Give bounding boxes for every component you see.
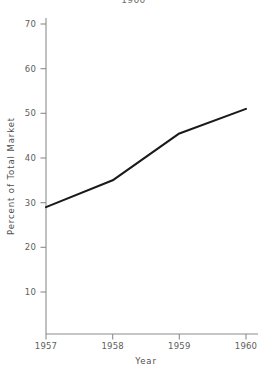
x-tick-label-1960: 1960 — [235, 341, 257, 351]
y-tick-label-70: 70 — [25, 19, 36, 29]
y-axis-title: Percent of Total Market — [6, 117, 16, 235]
x-tick-marks — [46, 334, 246, 340]
x-tick-label-1957: 1957 — [35, 341, 57, 351]
y-tick-label-60: 60 — [25, 64, 36, 74]
y-tick-label-10: 10 — [25, 287, 36, 297]
y-tick-label-30: 30 — [25, 198, 36, 208]
line-chart: 70 60 50 40 30 20 10 1957 1958 1959 1960… — [0, 0, 267, 370]
x-axis-title: Year — [134, 356, 157, 366]
x-tick-label-1958: 1958 — [101, 341, 123, 351]
chart-figure: 1960 70 60 50 40 30 20 10 — [0, 0, 267, 370]
y-tick-label-50: 50 — [25, 108, 36, 118]
y-tick-label-40: 40 — [25, 153, 36, 163]
data-line-percent-of-total-market — [46, 109, 246, 207]
y-tick-marks — [41, 24, 47, 292]
x-tick-label-1959: 1959 — [168, 341, 190, 351]
y-tick-label-20: 20 — [25, 242, 36, 252]
